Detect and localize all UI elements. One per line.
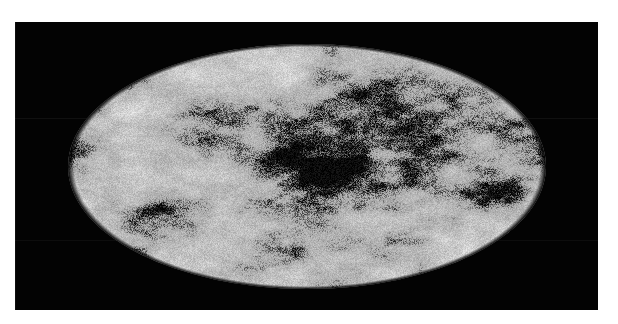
background-band-left: [15, 22, 16, 310]
sky-map-canvas: [68, 44, 546, 289]
figure-page: [0, 0, 618, 324]
sky-map-panel: [15, 22, 598, 310]
mollweide-sky-ellipse: [68, 44, 546, 289]
